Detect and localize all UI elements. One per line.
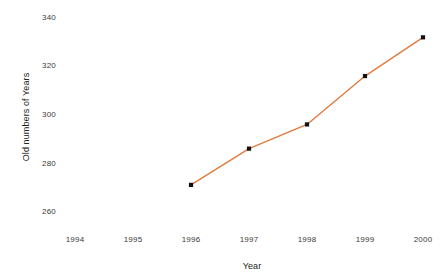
- x-axis-title: Year: [222, 261, 282, 271]
- data-point-marker: [363, 74, 367, 78]
- data-point-marker: [247, 147, 251, 151]
- x-tick-label-1998: 1998: [287, 235, 327, 244]
- x-tick-label-2000: 2000: [403, 235, 443, 244]
- x-tick-label-1996: 1996: [171, 235, 211, 244]
- data-markers-group: [189, 35, 425, 187]
- line-chart: Old numbers of Years 340 320 300 280 260…: [0, 0, 444, 280]
- y-tick-label-340: 340: [22, 13, 56, 22]
- y-tick-label-320: 320: [22, 61, 56, 70]
- x-tick-label-1997: 1997: [229, 235, 269, 244]
- x-tick-label-1999: 1999: [345, 235, 385, 244]
- data-point-marker: [305, 122, 309, 126]
- x-tick-label-1995: 1995: [113, 235, 153, 244]
- y-tick-label-260: 260: [22, 207, 56, 216]
- y-tick-label-280: 280: [22, 159, 56, 168]
- data-series-line: [191, 37, 423, 185]
- x-tick-label-1994: 1994: [55, 235, 95, 244]
- data-point-marker: [189, 183, 193, 187]
- y-tick-label-300: 300: [22, 110, 56, 119]
- data-point-marker: [421, 35, 425, 39]
